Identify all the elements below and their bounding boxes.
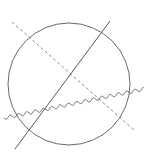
geometry-diagram [0, 0, 154, 162]
solid-straight-line [15, 21, 110, 149]
circle [8, 23, 130, 145]
wavy-line [4, 88, 144, 120]
